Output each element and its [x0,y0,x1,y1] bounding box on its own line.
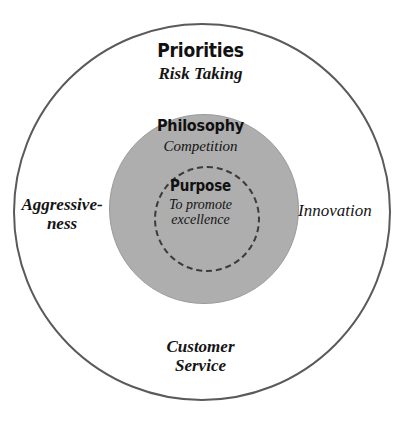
customer-service-value-line-2: Service [0,356,401,375]
customer-service-value-line-1: Customer [0,337,401,356]
priorities-value: Risk Taking [0,64,401,83]
aggressiveness-value-line-2: ness [16,214,108,233]
philosophy-value: Competition [0,138,401,155]
outer-label-innovation: Innovation [298,201,398,220]
diagram-canvas: Priorities Risk Taking Philosophy Compet… [0,0,401,428]
philosophy-heading: Philosophy [0,117,401,135]
customer-service-value: Customer Service [0,337,401,375]
layer-label-priorities: Priorities Risk Taking [0,40,401,83]
philosophy-value-line-1: Competition [0,138,401,155]
outer-label-aggressiveness: Aggressive- ness [16,195,108,233]
layer-label-philosophy: Philosophy Competition [0,117,401,155]
aggressiveness-value: Aggressive- ness [16,195,108,233]
purpose-heading: Purpose [0,178,401,195]
priorities-heading: Priorities [0,40,401,61]
innovation-value: Innovation [298,201,398,220]
outer-label-customer-service: Customer Service [0,337,401,375]
aggressiveness-value-line-1: Aggressive- [16,195,108,214]
innovation-value-line-1: Innovation [298,201,398,220]
priorities-value-line-1: Risk Taking [0,64,401,83]
